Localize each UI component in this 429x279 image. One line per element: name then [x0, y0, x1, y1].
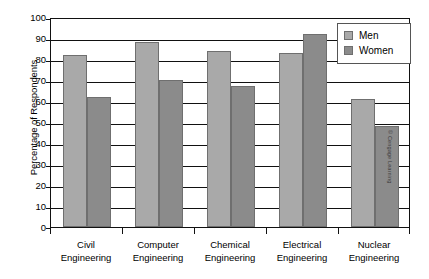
x-axis-tick-mark: [266, 228, 267, 234]
bar-women: [159, 80, 183, 227]
bar-men: [279, 53, 303, 227]
legend-swatch-men: [344, 31, 353, 40]
y-axis-tick-label: 20: [20, 180, 46, 192]
y-axis-tick-label: 10: [20, 201, 46, 213]
legend-item-women: Women: [344, 43, 404, 58]
bar-men: [207, 51, 231, 227]
x-axis-category-label: NuclearEngineering: [331, 238, 417, 264]
bar-men: [63, 55, 87, 227]
bar-group: [207, 19, 255, 227]
y-axis-tick-label: 40: [20, 138, 46, 150]
legend-label: Women: [359, 45, 393, 56]
bar-women: [87, 97, 111, 227]
copyright-credit: © Cengage Learning: [387, 130, 393, 210]
legend-swatch-women: [344, 46, 353, 55]
x-axis-tick-mark: [338, 228, 339, 234]
x-axis-tick-marks: [50, 228, 410, 236]
bar-group: [63, 19, 111, 227]
x-axis-tick-mark: [409, 228, 410, 234]
x-axis-category-label-line: Engineering: [331, 251, 417, 264]
bar-chart: Percentage of Respondents 10090807060504…: [0, 0, 429, 279]
y-axis-tick-label: 90: [20, 33, 46, 45]
x-axis-tick-mark: [50, 228, 51, 234]
y-axis-tick-label: 60: [20, 96, 46, 108]
bar-men: [351, 99, 375, 227]
bar-group: [135, 19, 183, 227]
legend-item-men: Men: [344, 28, 404, 43]
y-axis-tick-label: 0: [20, 222, 46, 234]
y-axis-tick-label: 50: [20, 117, 46, 129]
y-axis-tick-label: 30: [20, 159, 46, 171]
x-axis-tick-labels: CivilEngineeringComputerEngineeringChemi…: [50, 238, 410, 274]
x-axis-category-label-line: Nuclear: [331, 238, 417, 251]
legend-label: Men: [359, 30, 378, 41]
y-axis-tick-labels: 1009080706050403020100: [20, 12, 46, 228]
chart-legend: MenWomen: [337, 23, 411, 64]
bar-group: [279, 19, 327, 227]
y-axis-tick-label: 100: [20, 12, 46, 24]
y-axis-tick-label: 70: [20, 75, 46, 87]
bar-men: [135, 42, 159, 227]
x-axis-tick-mark: [122, 228, 123, 234]
bar-women: [303, 34, 327, 227]
bar-women: [231, 86, 255, 227]
x-axis-tick-mark: [194, 228, 195, 234]
y-axis-tick-label: 80: [20, 54, 46, 66]
